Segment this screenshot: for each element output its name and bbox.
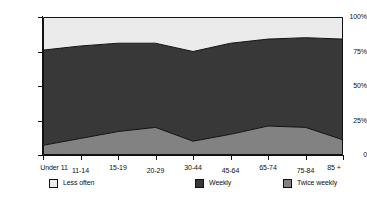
y-tick-label: 25% — [331, 117, 367, 124]
x-tick-mark — [193, 156, 194, 160]
x-tick-mark — [43, 156, 44, 160]
y-tick-mark — [38, 86, 43, 87]
x-tick-label: Under 11 — [40, 164, 67, 172]
x-tick-mark — [231, 156, 232, 160]
y-tick-mark — [38, 52, 43, 53]
x-tick-label: 30-44 — [184, 164, 201, 172]
y-tick-mark — [38, 121, 43, 122]
legend-item[interactable]: Less often — [49, 177, 94, 189]
x-tick-mark — [343, 156, 344, 160]
legend-label: Less often — [63, 179, 94, 187]
x-tick-mark — [306, 156, 307, 160]
plot-area — [43, 17, 343, 155]
y-axis — [0, 0, 36, 208]
y-tick-label: 50% — [331, 82, 367, 89]
area-series-svg — [43, 17, 343, 155]
x-tick-label: 75-84 — [297, 167, 314, 175]
x-tick-label: 85 + — [327, 164, 340, 172]
x-tick-mark — [156, 156, 157, 160]
legend-item[interactable]: Twice weekly — [283, 177, 337, 189]
x-tick-label: 15-19 — [109, 164, 126, 172]
x-tick-label: 20-29 — [147, 167, 164, 175]
x-tick-mark — [81, 156, 82, 160]
x-tick-label: 45-64 — [222, 167, 239, 175]
y-tick-mark — [38, 17, 43, 18]
legend-item[interactable]: Weekly — [195, 177, 231, 189]
x-tick-label: 11-14 — [72, 167, 89, 175]
legend-swatch-icon — [195, 179, 204, 188]
x-tick-mark — [268, 156, 269, 160]
x-tick-mark — [118, 156, 119, 160]
stacked-area-chart: Less oftenWeeklyTwice weekly 025%50%75%1… — [0, 0, 367, 208]
legend-label: Twice weekly — [297, 179, 337, 187]
x-tick-label: 65-74 — [259, 164, 276, 172]
y-tick-label: 0 — [331, 151, 367, 158]
y-tick-label: 75% — [331, 48, 367, 55]
legend-label: Weekly — [209, 179, 231, 187]
legend-swatch-icon — [283, 179, 292, 188]
chart-legend: Less oftenWeeklyTwice weekly — [43, 177, 343, 191]
y-tick-label: 100% — [331, 13, 367, 20]
legend-swatch-icon — [49, 179, 58, 188]
